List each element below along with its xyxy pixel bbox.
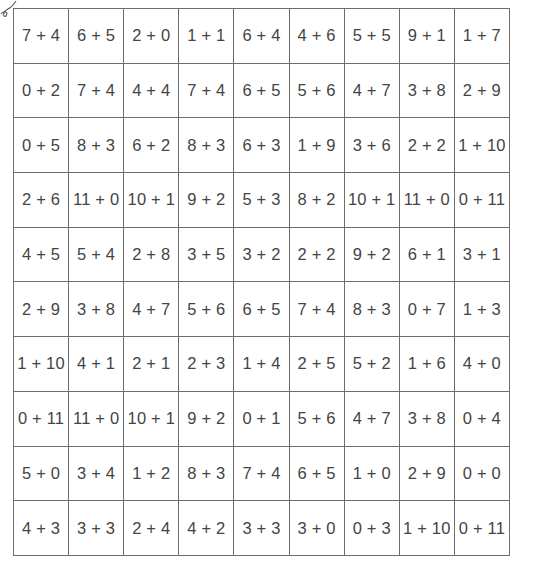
problem-cell: 11 + 0 [399,173,454,228]
grid-row: 0 + 27 + 44 + 47 + 46 + 55 + 64 + 73 + 8… [14,63,510,118]
problem-cell: 2 + 3 [179,337,234,392]
problem-cell: 7 + 4 [14,9,69,64]
problem-cell: 4 + 3 [14,501,69,556]
problem-cell: 3 + 8 [69,282,124,337]
problem-cell: 1 + 10 [399,501,454,556]
problem-cell: 5 + 3 [234,173,289,228]
problem-cell: 4 + 0 [454,337,509,392]
problem-cell: 4 + 7 [124,282,179,337]
problem-cell: 6 + 5 [289,446,344,501]
problem-cell: 6 + 5 [234,63,289,118]
problem-cell: 3 + 3 [69,501,124,556]
problem-cell: 3 + 3 [234,501,289,556]
problem-cell: 0 + 2 [14,63,69,118]
problem-cell: 3 + 0 [289,501,344,556]
problem-cell: 4 + 5 [14,227,69,282]
problem-cell: 9 + 2 [179,391,234,446]
problem-cell: 3 + 1 [454,227,509,282]
problem-cell: 1 + 3 [454,282,509,337]
problem-cell: 2 + 9 [454,63,509,118]
problem-cell: 0 + 11 [14,391,69,446]
addition-worksheet-grid: 7 + 46 + 52 + 01 + 16 + 44 + 65 + 59 + 1… [13,8,510,556]
problem-cell: 11 + 0 [69,173,124,228]
grid-row: 0 + 1111 + 010 + 19 + 20 + 15 + 64 + 73 … [14,391,510,446]
problem-cell: 0 + 1 [234,391,289,446]
problem-cell: 8 + 3 [69,118,124,173]
problem-cell: 2 + 0 [124,9,179,64]
problem-cell: 4 + 4 [124,63,179,118]
problem-cell: 0 + 7 [399,282,454,337]
problem-cell: 8 + 3 [344,282,399,337]
problem-cell: 0 + 5 [14,118,69,173]
problem-cell: 5 + 6 [289,391,344,446]
grid-row: 0 + 58 + 36 + 28 + 36 + 31 + 93 + 62 + 2… [14,118,510,173]
problem-cell: 2 + 6 [14,173,69,228]
problem-cell: 9 + 2 [179,173,234,228]
problem-cell: 6 + 2 [124,118,179,173]
problem-cell: 5 + 6 [289,63,344,118]
problem-cell: 6 + 1 [399,227,454,282]
grid-row: 4 + 33 + 32 + 44 + 23 + 33 + 00 + 31 + 1… [14,501,510,556]
problem-cell: 5 + 0 [14,446,69,501]
problem-cell: 4 + 7 [344,63,399,118]
problem-cell: 8 + 3 [179,118,234,173]
problem-cell: 2 + 2 [399,118,454,173]
grid-row: 2 + 611 + 010 + 19 + 25 + 38 + 210 + 111… [14,173,510,228]
problem-cell: 4 + 7 [344,391,399,446]
problem-cell: 4 + 1 [69,337,124,392]
problem-cell: 3 + 2 [234,227,289,282]
problem-cell: 1 + 7 [454,9,509,64]
problem-cell: 7 + 4 [69,63,124,118]
problem-cell: 2 + 2 [289,227,344,282]
grid-row: 5 + 03 + 41 + 28 + 37 + 46 + 51 + 02 + 9… [14,446,510,501]
problem-cell: 0 + 11 [454,501,509,556]
problem-cell: 9 + 2 [344,227,399,282]
problem-cell: 6 + 4 [234,9,289,64]
problem-cell: 0 + 0 [454,446,509,501]
problem-cell: 4 + 2 [179,501,234,556]
problem-cell: 6 + 5 [69,9,124,64]
problem-cell: 5 + 4 [69,227,124,282]
problem-cell: 2 + 9 [14,282,69,337]
problem-cell: 3 + 5 [179,227,234,282]
problem-cell: 1 + 1 [179,9,234,64]
problem-cell: 2 + 9 [399,446,454,501]
problem-cell: 5 + 2 [344,337,399,392]
problem-cell: 1 + 9 [289,118,344,173]
problem-cell: 2 + 5 [289,337,344,392]
problem-cell: 7 + 4 [234,446,289,501]
grid-row: 2 + 93 + 84 + 75 + 66 + 57 + 48 + 30 + 7… [14,282,510,337]
problem-cell: 11 + 0 [69,391,124,446]
problem-cell: 6 + 5 [234,282,289,337]
problem-cell: 0 + 4 [454,391,509,446]
problem-cell: 2 + 8 [124,227,179,282]
problem-cell: 1 + 2 [124,446,179,501]
problem-cell: 1 + 0 [344,446,399,501]
problem-cell: 10 + 1 [124,173,179,228]
problem-cell: 0 + 3 [344,501,399,556]
problem-cell: 7 + 4 [289,282,344,337]
problem-cell: 5 + 6 [179,282,234,337]
problem-cell: 9 + 1 [399,9,454,64]
problem-cell: 1 + 10 [14,337,69,392]
grid-row: 1 + 104 + 12 + 12 + 31 + 42 + 55 + 21 + … [14,337,510,392]
problem-cell: 0 + 11 [454,173,509,228]
problem-cell: 5 + 5 [344,9,399,64]
problem-cell: 8 + 3 [179,446,234,501]
grid-row: 4 + 55 + 42 + 83 + 53 + 22 + 29 + 26 + 1… [14,227,510,282]
problem-cell: 6 + 3 [234,118,289,173]
problem-cell: 3 + 4 [69,446,124,501]
problem-cell: 1 + 6 [399,337,454,392]
problem-cell: 8 + 2 [289,173,344,228]
problem-cell: 1 + 10 [454,118,509,173]
problem-cell: 2 + 4 [124,501,179,556]
grid-row: 7 + 46 + 52 + 01 + 16 + 44 + 65 + 59 + 1… [14,9,510,64]
problem-cell: 3 + 8 [399,63,454,118]
problem-cell: 10 + 1 [124,391,179,446]
problem-cell: 10 + 1 [344,173,399,228]
problem-cell: 7 + 4 [179,63,234,118]
problem-cell: 4 + 6 [289,9,344,64]
problem-cell: 3 + 8 [399,391,454,446]
problem-cell: 2 + 1 [124,337,179,392]
grid-body: 7 + 46 + 52 + 01 + 16 + 44 + 65 + 59 + 1… [14,9,510,556]
